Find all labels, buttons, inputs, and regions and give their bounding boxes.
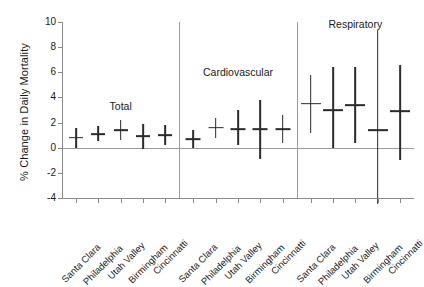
error-bar-whisker <box>332 67 334 147</box>
panel-divider <box>297 22 298 198</box>
y-tick <box>58 148 63 149</box>
point-estimate-marker <box>345 104 365 106</box>
y-tick <box>58 173 63 174</box>
point-estimate-marker <box>390 110 410 112</box>
point-estimate-marker <box>323 109 343 111</box>
point-estimate-marker <box>136 136 150 138</box>
panel-title-cardiovascular: Cardiovascular <box>203 66 273 78</box>
y-tick <box>58 97 63 98</box>
point-estimate-marker <box>91 133 105 135</box>
y-tick <box>58 72 63 73</box>
x-tick <box>121 198 122 203</box>
error-bar-whisker <box>399 65 401 161</box>
point-estimate-marker <box>114 129 128 131</box>
x-tick <box>165 198 166 203</box>
x-tick <box>216 198 217 203</box>
y-axis-line <box>62 22 63 198</box>
panel-title-total: Total <box>110 100 132 112</box>
point-estimate-marker <box>208 127 223 129</box>
x-tick <box>260 198 261 203</box>
y-tick-label: -2 <box>47 168 56 178</box>
x-tick <box>355 198 356 203</box>
x-tick <box>283 198 284 203</box>
point-estimate-marker <box>301 103 321 105</box>
y-tick-label: 4 <box>50 92 56 102</box>
x-tick <box>143 198 144 203</box>
point-estimate-marker <box>230 128 245 130</box>
x-tick <box>400 198 401 203</box>
y-tick-label: -4 <box>47 193 56 203</box>
panel-title-respiratory: Respiratory <box>328 18 382 30</box>
y-tick-label: 10 <box>45 17 56 27</box>
y-tick-label: 2 <box>50 118 56 128</box>
point-estimate-marker <box>275 128 290 130</box>
x-tick <box>76 198 77 203</box>
x-tick <box>378 198 379 203</box>
y-tick <box>58 47 63 48</box>
point-estimate-marker <box>186 138 201 140</box>
point-estimate-marker <box>69 137 83 139</box>
zero-reference-line <box>62 148 414 149</box>
x-tick <box>98 198 99 203</box>
y-tick <box>58 123 63 124</box>
plot-area: -4-20246810TotalCardiovascularRespirator… <box>62 22 414 198</box>
point-estimate-marker <box>253 128 268 130</box>
y-axis-title: % Change in Daily Mortality <box>18 17 34 207</box>
x-tick <box>193 198 194 203</box>
error-bar-whisker <box>377 30 379 205</box>
y-tick-label: 8 <box>50 42 56 52</box>
x-tick <box>238 198 239 203</box>
x-tick <box>311 198 312 203</box>
y-tick-label: 0 <box>50 143 56 153</box>
panel-divider <box>179 22 180 198</box>
y-tick-label: 6 <box>50 67 56 77</box>
x-tick <box>333 198 334 203</box>
y-tick <box>58 22 63 23</box>
point-estimate-marker <box>368 129 388 131</box>
point-estimate-marker <box>158 134 172 136</box>
